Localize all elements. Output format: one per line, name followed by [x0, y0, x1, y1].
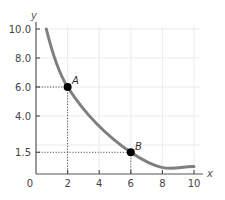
y-tick-4: 4.0 [15, 111, 31, 122]
x-axis-label: x [206, 168, 213, 179]
guide-lines [36, 87, 131, 174]
x-tick-6: 6 [128, 178, 134, 189]
y-tick-6: 6.0 [15, 82, 31, 93]
indifference-curve [46, 29, 194, 168]
point-a-label: A [71, 75, 79, 86]
x-tick-8: 8 [159, 178, 165, 189]
point-b-label: B [135, 141, 142, 152]
y-tick-10: 10.0 [9, 24, 31, 35]
point-b-marker [127, 148, 135, 156]
indifference-curve-chart: A B 10.0 8.0 6.0 4.0 1.5 0 2 4 6 8 10 y … [0, 0, 225, 200]
x-tick-0: 0 [27, 178, 33, 189]
x-tick-2: 2 [64, 178, 70, 189]
x-tick-4: 4 [96, 178, 102, 189]
axes [36, 22, 203, 174]
x-tick-10: 10 [188, 178, 201, 189]
y-axis-label: y [30, 10, 38, 21]
grid [36, 26, 200, 174]
point-a-marker [64, 83, 72, 91]
y-tick-8: 8.0 [15, 53, 31, 64]
y-tick-1-5: 1.5 [15, 147, 31, 158]
